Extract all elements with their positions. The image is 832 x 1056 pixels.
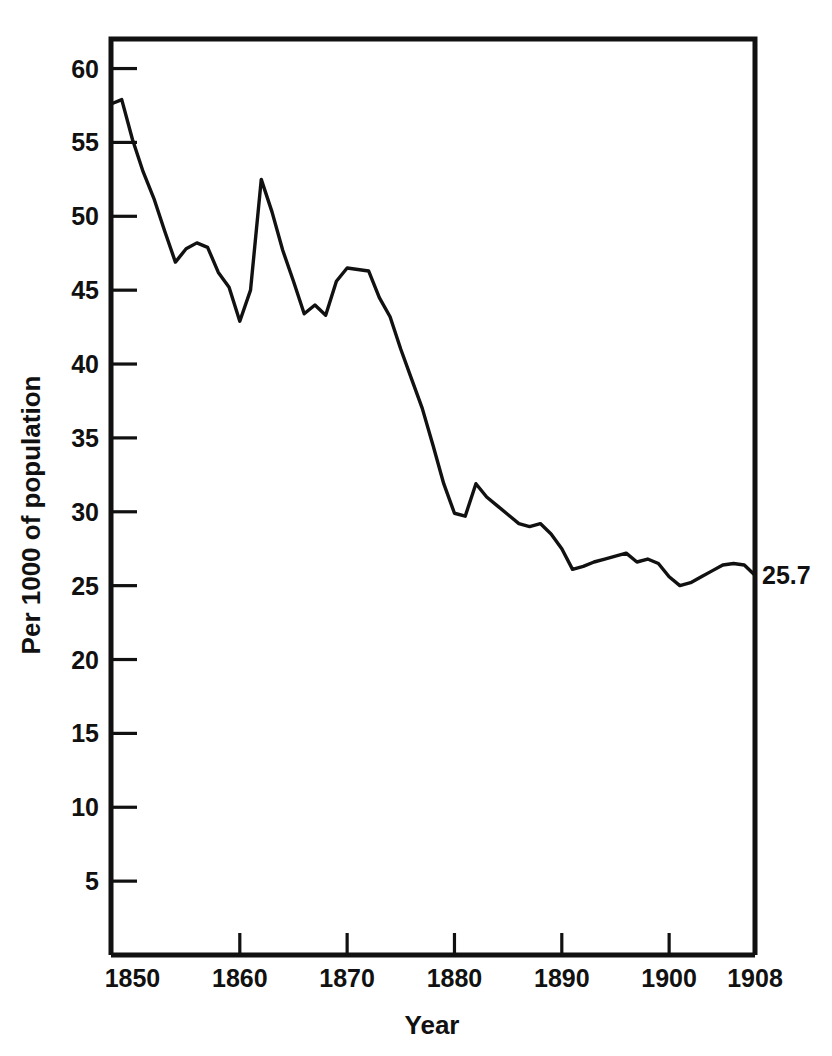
x-tick-label: 1908 [727, 964, 783, 992]
x-tick-label: 1900 [641, 964, 697, 992]
y-tick-label: 15 [71, 719, 99, 747]
end-value-label: 25.7 [762, 561, 811, 589]
x-tick-label: 1850 [105, 964, 161, 992]
frame-box [111, 39, 755, 955]
y-axis-title: Per 1000 of population [16, 376, 46, 655]
x-tick-label: 1870 [319, 964, 375, 992]
y-tick-label: 10 [71, 793, 99, 821]
y-tick-label: 50 [71, 202, 99, 230]
y-tick-label: 35 [71, 424, 99, 452]
x-tick-label: 1880 [427, 964, 483, 992]
y-tick-label: 20 [71, 646, 99, 674]
x-tick-label: 1890 [534, 964, 590, 992]
x-tick-label: 1860 [212, 964, 268, 992]
y-tick-group: 51015202530354045505560 [71, 55, 137, 896]
series-line [111, 100, 755, 586]
y-tick-label: 5 [85, 867, 99, 895]
x-axis-title: Year [405, 1010, 460, 1040]
y-tick-label: 25 [71, 572, 99, 600]
y-tick-label: 60 [71, 55, 99, 83]
line-chart: 51015202530354045505560 1850186018701880… [0, 0, 832, 1056]
plot-frame [111, 39, 755, 955]
y-tick-label: 30 [71, 498, 99, 526]
y-tick-label: 40 [71, 350, 99, 378]
y-tick-label: 55 [71, 128, 99, 156]
x-tick-group: 1850186018701880189019001908 [105, 933, 783, 992]
figure-root: 51015202530354045505560 1850186018701880… [0, 0, 832, 1056]
y-tick-label: 45 [71, 276, 99, 304]
